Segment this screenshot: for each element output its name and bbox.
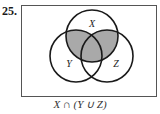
label-y: Y: [66, 58, 73, 69]
caption: X ∩ (Y ∪ Z): [0, 98, 160, 111]
venn-diagram: X Y Z: [0, 0, 160, 114]
label-x: X: [88, 18, 96, 29]
shaded-region: [50, 30, 133, 82]
label-z: Z: [113, 58, 119, 69]
